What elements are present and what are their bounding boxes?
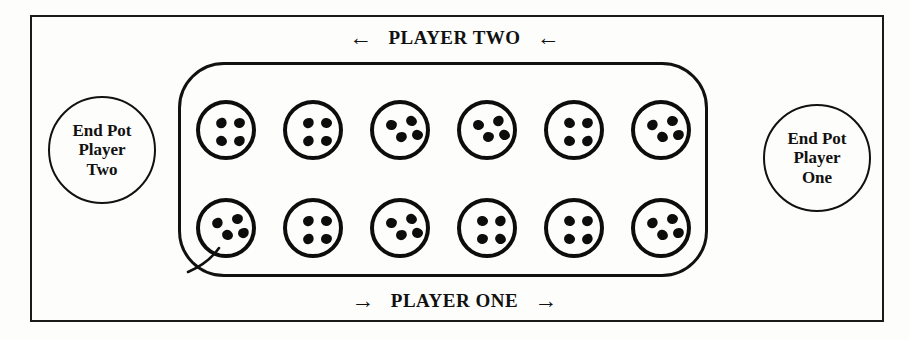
seed bbox=[672, 128, 686, 141]
seed bbox=[493, 214, 508, 229]
pit-top-1[interactable] bbox=[196, 100, 256, 160]
end-pot-player-two-line1: End Pot bbox=[72, 121, 131, 140]
seed bbox=[645, 216, 660, 231]
seed bbox=[491, 114, 506, 129]
end-pot-player-one-line2: Player bbox=[793, 148, 840, 167]
seed bbox=[320, 215, 333, 227]
pit-top-6[interactable] bbox=[631, 100, 691, 160]
seed bbox=[562, 214, 577, 228]
seed bbox=[581, 214, 595, 227]
seed bbox=[672, 226, 686, 239]
seed bbox=[472, 119, 485, 131]
pit-top-4[interactable] bbox=[457, 100, 517, 160]
seed bbox=[394, 228, 408, 242]
seed bbox=[580, 134, 595, 149]
player-one-left-arrow-icon: → bbox=[337, 288, 389, 313]
pit-bottom-1[interactable] bbox=[196, 198, 256, 258]
seed bbox=[321, 234, 333, 245]
seed bbox=[220, 228, 234, 242]
seed bbox=[231, 213, 243, 224]
seed bbox=[385, 217, 397, 228]
pit-bottom-3[interactable] bbox=[370, 198, 430, 258]
mancala-board-diagram: ←PLAYER TWO← →PLAYER ONE→ End Pot Player… bbox=[0, 0, 909, 340]
seed bbox=[581, 116, 595, 129]
seed bbox=[210, 216, 225, 231]
seed bbox=[493, 232, 508, 246]
seed bbox=[483, 132, 495, 143]
seed bbox=[301, 214, 315, 228]
player-one-direction-label: →PLAYER ONE→ bbox=[0, 287, 909, 313]
seed bbox=[394, 130, 408, 144]
seed bbox=[563, 233, 576, 246]
seed bbox=[301, 232, 316, 247]
pit-top-3[interactable] bbox=[370, 100, 430, 160]
player-one-right-arrow-icon: → bbox=[520, 288, 572, 313]
seed bbox=[233, 117, 245, 128]
seed bbox=[645, 118, 660, 133]
seed bbox=[667, 116, 679, 127]
player-two-right-arrow-icon: ← bbox=[523, 25, 575, 50]
pit-bottom-2[interactable] bbox=[283, 198, 343, 258]
seed bbox=[667, 214, 679, 225]
pit-top-2[interactable] bbox=[283, 100, 343, 160]
inner-playing-area bbox=[178, 62, 708, 277]
seed bbox=[655, 130, 670, 144]
end-pot-player-one-line3: One bbox=[802, 168, 832, 187]
seed bbox=[411, 227, 424, 239]
seed bbox=[476, 215, 489, 227]
end-pot-player-one-line1: End Pot bbox=[787, 129, 846, 148]
seed bbox=[321, 136, 333, 147]
seed bbox=[236, 226, 250, 240]
seed bbox=[563, 135, 576, 148]
pit-bottom-5[interactable] bbox=[544, 198, 604, 258]
end-pot-player-two-line3: Two bbox=[87, 160, 118, 179]
seed bbox=[404, 212, 419, 226]
pit-bottom-4[interactable] bbox=[457, 198, 517, 258]
seed bbox=[301, 134, 316, 149]
player-one-label-text: PLAYER ONE bbox=[389, 290, 520, 312]
seed bbox=[214, 134, 228, 148]
seed bbox=[320, 117, 333, 129]
player-two-direction-label: ←PLAYER TWO← bbox=[0, 24, 909, 50]
pit-top-5[interactable] bbox=[544, 100, 604, 160]
seed bbox=[214, 116, 229, 131]
seed bbox=[385, 119, 397, 130]
seed bbox=[404, 114, 419, 128]
player-two-left-arrow-icon: ← bbox=[335, 25, 387, 50]
seed bbox=[497, 128, 512, 142]
seed bbox=[655, 228, 670, 242]
seed bbox=[232, 134, 246, 148]
pit-bottom-6[interactable] bbox=[631, 198, 691, 258]
end-pot-player-two-line2: Player bbox=[78, 140, 125, 159]
end-pot-player-one[interactable]: End Pot Player One bbox=[763, 104, 871, 212]
seed bbox=[562, 116, 577, 130]
player-two-label-text: PLAYER TWO bbox=[386, 27, 522, 49]
seed bbox=[301, 116, 315, 130]
end-pot-player-two[interactable]: End Pot Player Two bbox=[48, 96, 156, 204]
seed bbox=[411, 129, 424, 141]
seed bbox=[580, 232, 595, 247]
seed bbox=[477, 234, 489, 245]
